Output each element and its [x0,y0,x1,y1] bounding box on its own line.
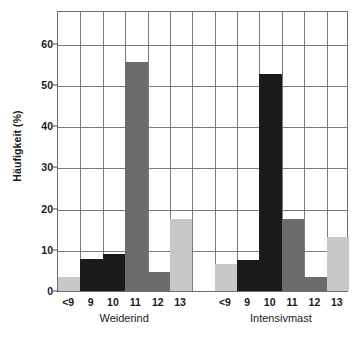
y-axis-tick-label: 20 [29,203,53,215]
gridline-vertical [103,12,104,291]
bar-chart-figure: Häufigkeit (%) 0102030405060 <9910111213… [0,0,364,341]
x-axis-group-label: Weiderind [99,312,148,324]
x-axis-tick-label: <9 [219,296,231,308]
x-axis-tick-label: 11 [130,296,141,308]
y-axis-tick-labels: 0102030405060 [25,0,53,341]
plot-area [57,11,348,292]
bar [237,260,259,291]
x-axis-tick-label: 10 [107,296,119,308]
x-axis-tick-label: 9 [244,296,250,308]
x-axis: <9910111213Weiderind<9910111213Intensivm… [0,292,364,341]
bar [103,254,125,291]
x-axis-tick-label: 13 [331,296,343,308]
y-axis-tick-label: 30 [29,161,53,173]
x-axis-tick-label: 13 [174,296,186,308]
x-axis-tick-label: 10 [264,296,276,308]
x-axis-tick-label: 12 [309,296,321,308]
x-axis-tick-label: 12 [152,296,164,308]
bar [170,219,192,291]
gridline-vertical [80,12,81,291]
gridline-vertical [215,12,216,291]
gridline-vertical [237,12,238,291]
y-axis-tick-label: 10 [29,244,53,256]
bar [259,74,281,291]
gridline-vertical [304,12,305,291]
bar [282,219,304,291]
y-axis-tick-mark [53,126,58,127]
bar [148,272,170,291]
y-axis-tick-mark [53,291,58,292]
bar [58,277,80,291]
x-axis-tick-label: 11 [286,296,297,308]
y-axis-tick-label: 60 [29,38,53,50]
x-axis-tick-label: <9 [62,296,74,308]
y-axis-tick-label: 40 [29,120,53,132]
bar [80,259,102,291]
gridline-vertical [192,12,193,291]
y-axis-label-text: Häufigkeit (%) [11,110,23,181]
y-axis-tick-mark [53,208,58,209]
y-axis-tick-mark [53,85,58,86]
bar [125,62,147,291]
x-axis-group-label: Intensivmast [250,312,312,324]
x-axis-tick-label: 9 [88,296,94,308]
gridline-vertical [148,12,149,291]
y-axis-tick-mark [53,249,58,250]
y-axis-tick-label: 50 [29,79,53,91]
bar [327,237,349,291]
y-axis-tick-mark [53,43,58,44]
bar [304,277,326,291]
y-axis-tick-mark [53,167,58,168]
bar [215,264,237,291]
